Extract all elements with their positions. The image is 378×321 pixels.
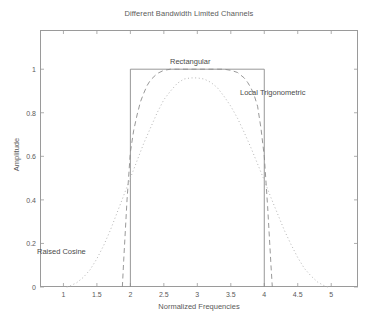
x-tick-label: 4.5: [293, 291, 303, 298]
y-axis-label: Amplitude: [12, 125, 21, 185]
x-tick-label: 4: [262, 291, 266, 298]
x-tick-label: 1.5: [92, 291, 102, 298]
x-tick-label: 3.5: [226, 291, 236, 298]
annotation-rectangular: Rectangular: [170, 57, 210, 66]
x-axis-label: Normalized Frequencies: [40, 302, 358, 311]
x-tick-label: 1: [61, 291, 65, 298]
chart-plot-curves: [40, 30, 358, 287]
chart-title: Different Bandwidth Limited Channels: [0, 9, 378, 18]
y-tick-label: 0.2: [6, 240, 36, 247]
x-tick-label: 5: [329, 291, 333, 298]
series-line-raised-cosine: [67, 78, 328, 287]
y-tick-label: 0: [6, 284, 36, 291]
y-tick-label: 0.6: [6, 153, 36, 160]
series-line-rectangular: [130, 69, 264, 287]
y-tick-label: 0.4: [6, 196, 36, 203]
y-tick-label: 0.8: [6, 109, 36, 116]
axis-tick-marks: [40, 30, 358, 287]
annotation-raised-cosine: Raised Cosine: [37, 247, 86, 256]
x-tick-label: 2.5: [159, 291, 169, 298]
data-series-group: [67, 69, 328, 287]
annotation-local-trigonometric: Local Trigonometric: [240, 88, 305, 97]
x-tick-label: 3: [195, 291, 199, 298]
figure-canvas: Different Bandwidth Limited Channels 11.…: [0, 0, 378, 321]
y-tick-label: 1: [6, 66, 36, 73]
series-line-local-trigonometric: [122, 69, 272, 287]
x-tick-label: 2: [128, 291, 132, 298]
